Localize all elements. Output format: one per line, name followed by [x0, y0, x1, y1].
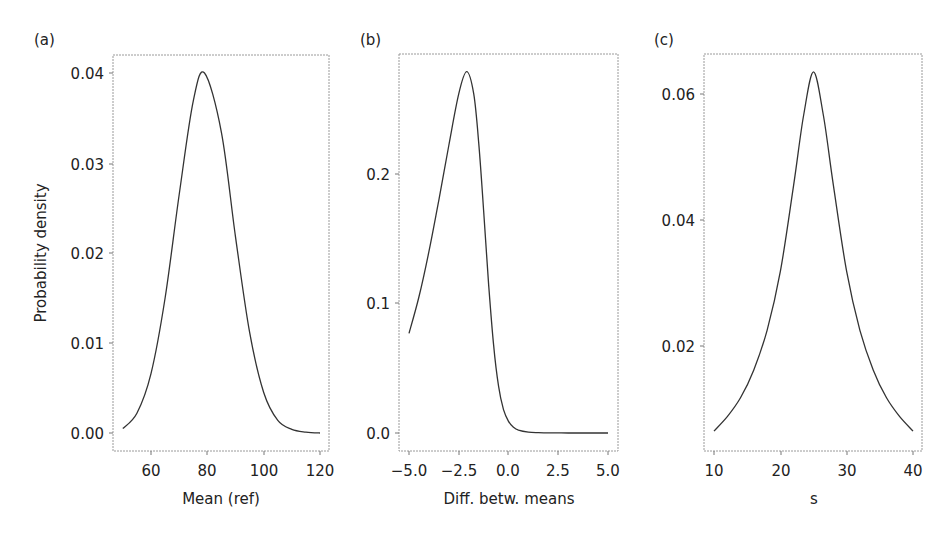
panel-a-xtick: 100 — [250, 462, 279, 480]
panel-c-ytick: 0.06 — [662, 86, 695, 104]
panel-c-yticks: 0.06 0.04 0.02 — [662, 86, 704, 356]
panel-a-xtick: 120 — [306, 462, 335, 480]
panel-b-ytick: 0.0 — [366, 425, 390, 443]
panel-c-density-curve — [714, 72, 913, 431]
panel-a-xtick: 80 — [197, 462, 216, 480]
panel-a-xticks: 60 80 100 120 — [141, 451, 334, 480]
panel-a-ytick: 0.04 — [71, 65, 104, 83]
panel-b-frame — [399, 54, 618, 451]
panel-c-xlabel: s — [810, 490, 818, 508]
panel-c-ytick: 0.02 — [662, 338, 695, 356]
panel-b: (b) 0.2 0.1 0.0 −5.0 −2.5 0.0 2.5 5.0 Di… — [360, 31, 620, 508]
panel-c-xticks: 10 20 30 40 — [704, 451, 922, 480]
panel-a-density-curve — [123, 72, 320, 433]
panel-a-xtick: 60 — [141, 462, 160, 480]
panel-c-xtick: 40 — [903, 462, 922, 480]
panel-a-xlabel: Mean (ref) — [182, 490, 260, 508]
figure: (a) 0.04 0.03 0.02 0.01 0.00 60 80 100 1… — [0, 0, 950, 538]
panel-c-ytick: 0.04 — [662, 212, 695, 230]
panel-a-ytick: 0.02 — [71, 245, 104, 263]
panel-c: (c) 0.06 0.04 0.02 10 20 30 40 s — [654, 31, 923, 508]
panel-c-xtick: 20 — [771, 462, 790, 480]
panel-c-frame — [704, 54, 922, 451]
panel-a-ytick: 0.01 — [71, 335, 104, 353]
panel-c-xtick: 30 — [837, 462, 856, 480]
panel-b-xtick: −2.5 — [441, 462, 477, 480]
panel-b-xtick: −5.0 — [391, 462, 427, 480]
panel-a-ytick: 0.00 — [71, 425, 104, 443]
panel-b-ytick: 0.2 — [366, 166, 390, 184]
panel-b-density-curve — [409, 72, 608, 433]
panel-a-label: (a) — [34, 31, 55, 49]
panel-b-yticks: 0.2 0.1 0.0 — [366, 166, 399, 443]
panel-b-xtick: 5.0 — [596, 462, 620, 480]
panel-b-ytick: 0.1 — [366, 295, 390, 313]
panel-c-xtick: 10 — [704, 462, 723, 480]
panel-b-xtick: 0.0 — [496, 462, 520, 480]
panel-a-ylabel: Probability density — [32, 183, 50, 322]
panel-b-xticks: −5.0 −2.5 0.0 2.5 5.0 — [391, 451, 620, 480]
panel-c-label: (c) — [654, 31, 674, 49]
panel-b-xtick: 2.5 — [546, 462, 570, 480]
panel-b-label: (b) — [360, 31, 381, 49]
panel-a-yticks: 0.04 0.03 0.02 0.01 0.00 — [71, 65, 113, 443]
panel-a-ytick: 0.03 — [71, 156, 104, 174]
panel-b-xlabel: Diff. betw. means — [443, 490, 574, 508]
panel-a: (a) 0.04 0.03 0.02 0.01 0.00 60 80 100 1… — [32, 31, 334, 508]
